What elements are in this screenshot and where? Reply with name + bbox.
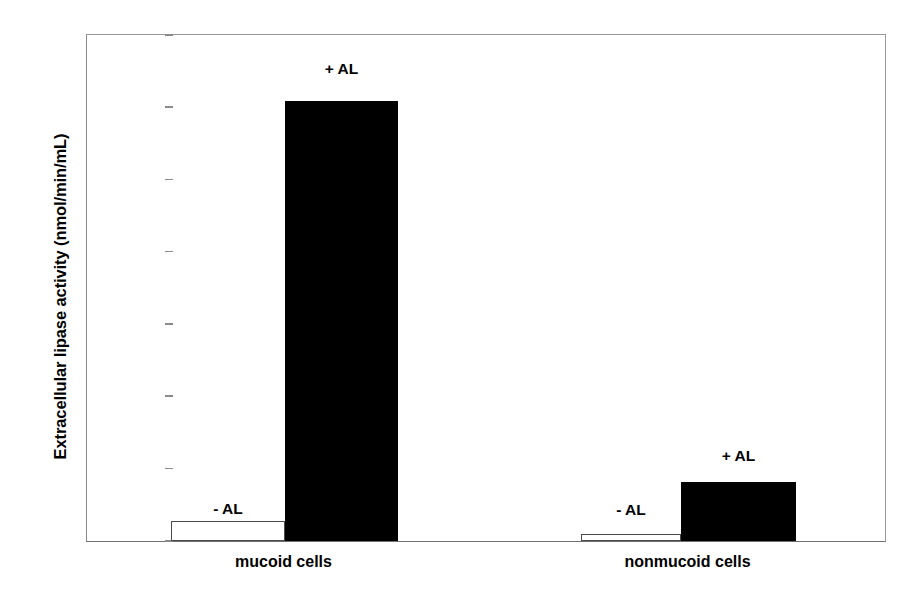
- bar-label-nonmucoid-plus-al: + AL: [681, 447, 796, 465]
- category-label-mucoid-cells: mucoid cells: [170, 553, 397, 571]
- y-tick-mark: [165, 468, 173, 470]
- y-tick-mark: [165, 34, 173, 36]
- y-axis-title: Extracellular lipase activity (nmol/min/…: [51, 37, 70, 557]
- cut-off-caption: [0, 585, 908, 596]
- category-label-nonmucoid-cells: nonmucoid cells: [580, 553, 795, 571]
- bar-label-nonmucoid-minus-al: - AL: [581, 501, 681, 519]
- bar-nonmucoid-minus-al: [581, 534, 681, 541]
- bar-mucoid-minus-al: [171, 521, 285, 541]
- y-tick-mark: [165, 251, 173, 253]
- y-tick-mark: [165, 179, 173, 181]
- bar-nonmucoid-plus-al: [681, 482, 796, 541]
- y-tick-mark: [165, 395, 173, 397]
- bar-chart-figure: Extracellular lipase activity (nmol/min/…: [0, 0, 908, 596]
- y-tick-mark: [165, 106, 173, 108]
- y-tick-mark: [165, 323, 173, 325]
- plot-area: 140 120 100 80 60 40 20 0: [86, 34, 886, 542]
- bar-label-mucoid-plus-al: + AL: [285, 60, 398, 78]
- cut-off-caption-text: [8, 585, 908, 596]
- bar-label-mucoid-minus-al: - AL: [171, 500, 285, 518]
- bar-mucoid-plus-al: [285, 101, 398, 541]
